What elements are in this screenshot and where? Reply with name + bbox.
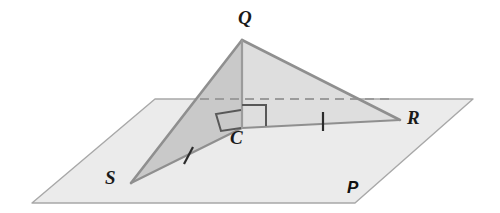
vertex-label-r: R — [407, 108, 420, 127]
vertex-label-c: C — [230, 128, 243, 147]
vertex-label-s: S — [105, 168, 116, 187]
plane-label-p: P — [347, 179, 358, 196]
figure-canvas — [0, 0, 500, 213]
geometry-figure: Q C S R P — [0, 0, 500, 213]
vertex-label-q: Q — [238, 8, 252, 27]
